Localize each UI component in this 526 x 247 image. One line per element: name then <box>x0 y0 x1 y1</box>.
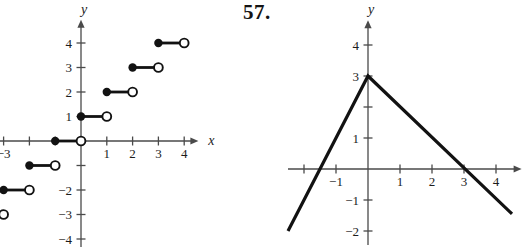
open-endpoint <box>0 210 8 219</box>
open-endpoint <box>180 39 189 48</box>
x-tick-label: 4 <box>493 174 500 189</box>
x-tick-label: 3 <box>461 174 468 189</box>
y-tick-label: −1 <box>345 193 359 208</box>
y-tick-label: 2 <box>66 85 73 100</box>
y-axis-arrow <box>364 20 371 28</box>
x-tick-label: 4 <box>181 146 188 161</box>
closed-endpoint <box>25 161 33 169</box>
y-tick-label: 3 <box>66 60 73 75</box>
y-tick-label: 1 <box>353 131 360 146</box>
y-tick-label: 3 <box>353 69 360 84</box>
y-tick-label: −2 <box>58 183 72 198</box>
function-curve <box>288 76 512 231</box>
closed-endpoint <box>154 39 162 47</box>
open-endpoint <box>154 63 163 72</box>
x-tick-label: 1 <box>104 146 111 161</box>
y-axis-arrow <box>77 20 84 28</box>
x-axis-arrow <box>514 165 522 172</box>
x-tick-label: 2 <box>429 174 436 189</box>
open-endpoint <box>128 88 137 97</box>
absolute-value-graph: y−11234431−1−2 <box>263 0 526 247</box>
x-tick-label: −3 <box>0 146 11 161</box>
figure-canvas: xy−312344321−2−3−4 y−11234431−1−2 57. <box>0 0 526 247</box>
y-tick-label: 1 <box>66 109 73 124</box>
problem-number-label: 57. <box>243 0 271 25</box>
y-axis-label: y <box>366 2 375 17</box>
x-axis-label: x <box>207 133 215 148</box>
y-tick-label: −4 <box>58 232 72 247</box>
open-endpoint <box>25 186 34 195</box>
y-tick-label: −3 <box>58 207 72 222</box>
x-axis-arrow <box>190 137 198 144</box>
closed-endpoint <box>51 137 59 145</box>
x-tick-label: 2 <box>129 146 136 161</box>
step-function-graph: xy−312344321−2−3−4 <box>0 0 263 247</box>
open-endpoint <box>51 161 60 170</box>
y-axis-label: y <box>79 2 88 17</box>
x-tick-label: 1 <box>397 174 404 189</box>
open-endpoint <box>102 112 111 121</box>
closed-endpoint <box>128 63 136 71</box>
closed-endpoint <box>0 186 8 194</box>
closed-endpoint <box>77 112 85 120</box>
y-tick-label: 4 <box>66 36 73 51</box>
x-tick-label: −1 <box>329 174 343 189</box>
y-tick-label: −2 <box>345 224 359 239</box>
x-tick-label: 3 <box>155 146 162 161</box>
closed-endpoint <box>103 88 111 96</box>
open-endpoint <box>77 137 86 146</box>
y-tick-label: 4 <box>353 38 360 53</box>
